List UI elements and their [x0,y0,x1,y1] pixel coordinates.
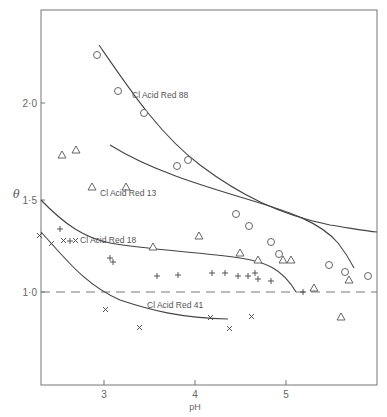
x-tick-3: 3 [101,389,107,400]
label-acid-red-88: Cl Acid Red 88 [132,90,188,100]
fit-curves [41,45,377,319]
plot-frame [41,10,377,385]
y-tick-1-0: 1·0 [23,287,38,298]
x-tick-4: 4 [192,389,198,400]
y-tick-2-0: 2·0 [23,98,38,109]
series-acid-red-13-markers [58,146,353,320]
x-tick-5: 5 [283,389,289,400]
y-tick-1-5: 1·5 [23,195,38,206]
series-acid-red-88-markers [94,52,372,280]
y-axis: 2·0 1·5 1·0 θ [13,98,45,298]
x-axis-title: pH [189,402,201,412]
curve-acid-red-88 [99,45,377,232]
chart-canvas: 2·0 1·5 1·0 θ 3 4 5 pH [0,0,387,417]
curve-acid-red-13 [110,145,354,268]
label-acid-red-13: Cl Acid Red 13 [100,188,156,198]
label-acid-red-41: Cl Acid Red 41 [147,300,203,310]
label-acid-red-18: Cl Acid Red 18 [80,235,136,245]
y-axis-title: θ [13,188,20,201]
